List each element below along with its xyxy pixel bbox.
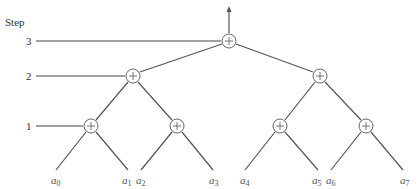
- node-step2-right: [313, 69, 327, 83]
- leaf-label-a5: a5: [312, 174, 322, 188]
- leaf-label-a3: a3: [209, 174, 219, 188]
- node-root: [222, 34, 236, 48]
- node-step1-0: [84, 119, 98, 133]
- leaf-label-a4: a4: [240, 174, 250, 188]
- node-step1-3: [359, 119, 373, 133]
- reduction-tree-diagram: Step 3 2 1: [0, 0, 420, 189]
- step-label-1: 1: [26, 120, 32, 132]
- step-label-3: 3: [26, 35, 32, 47]
- node-step2-left: [126, 69, 140, 83]
- step-axis-title: Step: [5, 16, 25, 28]
- leaf-label-a2: a2: [136, 174, 146, 188]
- step-label-2: 2: [26, 70, 32, 82]
- leaf-label-a1: a1: [122, 174, 132, 188]
- leaf-label-a0: a0: [51, 174, 61, 188]
- leaf-label-a7: a7: [400, 174, 410, 188]
- tree-edges: [56, 44, 403, 170]
- node-step1-1: [170, 119, 184, 133]
- node-step1-2: [273, 119, 287, 133]
- output-arrow-icon: [227, 6, 232, 33]
- leaf-label-a6: a6: [326, 174, 336, 188]
